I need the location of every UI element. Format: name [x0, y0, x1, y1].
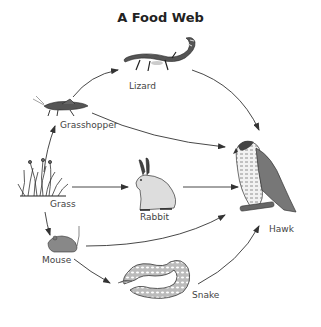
label-hawk: Hawk [269, 224, 294, 234]
arrow-grasshopper-to-hawk [92, 113, 225, 147]
hawk-icon [233, 141, 296, 212]
grasshopper-icon [33, 96, 88, 116]
arrow-snake-to-hawk [198, 226, 259, 284]
food-web-diagram [0, 0, 321, 327]
mouse-icon [48, 226, 79, 252]
label-grasshopper: Grasshopper [60, 120, 117, 130]
label-lizard: Lizard [129, 81, 156, 91]
rabbit-icon [136, 158, 176, 210]
grass-icon [18, 158, 68, 196]
label-grass: Grass [50, 199, 76, 209]
arrow-lizard-to-hawk [192, 70, 259, 130]
snake-icon [118, 260, 190, 298]
lizard-icon [124, 38, 195, 72]
arrow-grass-to-grasshopper [44, 126, 55, 172]
label-rabbit: Rabbit [140, 212, 169, 222]
arrow-mouse-to-snake [74, 259, 110, 283]
label-mouse: Mouse [42, 255, 71, 265]
arrow-grasshopper-to-lizard [73, 70, 118, 97]
label-snake: Snake [192, 290, 219, 300]
arrow-grass-to-mouse [45, 212, 50, 235]
